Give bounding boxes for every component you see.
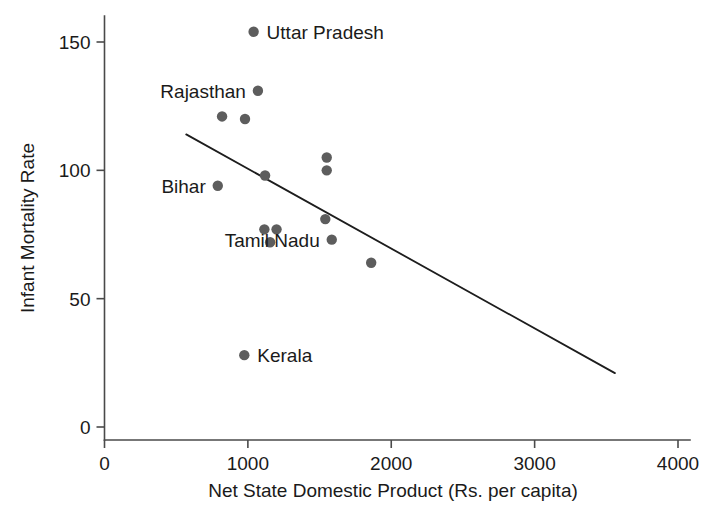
x-tick-label: 3000 (513, 453, 555, 474)
y-tick-label: 50 (69, 289, 90, 310)
data-point-marker (327, 234, 337, 244)
data-point-marker (239, 350, 249, 360)
data-points (213, 27, 377, 361)
y-axis-title: Infant Mortality Rate (17, 143, 38, 313)
data-point-label: Rajasthan (160, 81, 246, 102)
data-point-marker (260, 170, 270, 180)
data-point-marker (366, 258, 376, 268)
axes (105, 16, 691, 440)
x-tick-label: 4000 (657, 453, 699, 474)
data-point-marker (240, 114, 250, 124)
regression-line (186, 134, 615, 373)
data-point-label: Kerala (257, 345, 312, 366)
data-point-marker (248, 27, 258, 37)
tick-marks (97, 42, 679, 448)
x-tick-label: 0 (99, 453, 110, 474)
plot-canvas: 05010015001000200030004000 Uttar Pradesh… (0, 0, 720, 520)
data-point-label: Tamil Nadu (225, 230, 320, 251)
data-point-marker (320, 214, 330, 224)
x-axis-title: Net State Domestic Product (Rs. per capi… (208, 480, 578, 501)
x-tick-label: 2000 (370, 453, 412, 474)
data-point-marker (217, 111, 227, 121)
y-tick-label: 0 (80, 417, 91, 438)
data-point-marker (253, 86, 263, 96)
data-point-marker (213, 181, 223, 191)
y-tick-label: 150 (59, 32, 91, 53)
scatter-chart-figure: 05010015001000200030004000 Uttar Pradesh… (0, 0, 720, 520)
x-tick-label: 1000 (227, 453, 269, 474)
data-point-label: Uttar Pradesh (267, 22, 384, 43)
y-tick-label: 100 (59, 160, 91, 181)
data-point-marker (322, 165, 332, 175)
trend-line (186, 134, 615, 373)
data-point-marker (322, 152, 332, 162)
data-point-label: Bihar (161, 176, 206, 197)
point-labels: Uttar PradeshRajasthanBiharTamil NaduKer… (160, 22, 383, 366)
tick-labels: 05010015001000200030004000 (59, 32, 699, 474)
